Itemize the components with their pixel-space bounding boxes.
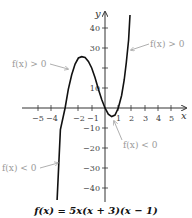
annotation-negative-left: f(x) < 0 xyxy=(2,163,58,173)
svg-text:f(x) > 0: f(x) > 0 xyxy=(12,59,47,69)
svg-text:f(x) < 0: f(x) < 0 xyxy=(2,163,37,173)
annotation-negative-mid: f(x) < 0 xyxy=(114,121,158,150)
svg-text:−40: −40 xyxy=(83,184,100,193)
svg-text:−5: −5 xyxy=(32,114,44,123)
svg-text:−4: −4 xyxy=(46,114,58,123)
svg-text:−30: −30 xyxy=(83,164,100,173)
svg-text:−2: −2 xyxy=(73,114,85,123)
svg-text:−20: −20 xyxy=(83,144,100,153)
svg-text:2: 2 xyxy=(129,114,134,123)
chart-title: f(x) = 5x(x + 3)(x − 1) xyxy=(33,205,158,216)
x-tick-labels: −5 −4 −2 −1 1 2 3 4 5 xyxy=(32,114,174,123)
y-axis-label: y xyxy=(94,8,101,19)
svg-text:5: 5 xyxy=(169,114,174,123)
annotation-positive-left: f(x) > 0 xyxy=(12,59,68,69)
annotation-positive-right: f(x) > 0 xyxy=(131,39,185,50)
svg-text:3: 3 xyxy=(143,114,148,123)
svg-text:−10: −10 xyxy=(83,124,100,133)
svg-text:4: 4 xyxy=(156,114,161,123)
polynomial-graph: x y −5 −4 −2 −1 1 2 3 4 5 40 30 xyxy=(0,0,192,218)
svg-text:30: 30 xyxy=(90,44,100,53)
x-axis-label: x xyxy=(181,110,187,121)
svg-text:40: 40 xyxy=(90,24,100,33)
svg-text:1: 1 xyxy=(116,114,121,123)
svg-text:−1: −1 xyxy=(87,114,99,123)
svg-text:f(x) > 0: f(x) > 0 xyxy=(150,39,185,49)
svg-text:f(x) < 0: f(x) < 0 xyxy=(123,140,158,150)
